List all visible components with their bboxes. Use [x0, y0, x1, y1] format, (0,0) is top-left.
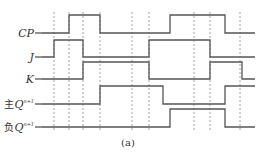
timing-diagram-svg: CPJK主Qn+1负Qn+1 (a): [0, 0, 276, 155]
waveform-master-q: [42, 86, 255, 104]
waveform-k: [42, 62, 255, 79]
waveform-slave-q: [42, 109, 255, 127]
waveform-cp: [42, 15, 255, 33]
signal-labels: CPJK主Qn+1负Qn+1: [4, 27, 42, 134]
label-master-q: 主Qn+1: [4, 98, 34, 111]
figure-caption: (a): [121, 137, 135, 148]
label-cp: CP: [18, 27, 34, 40]
waveform-j: [42, 40, 255, 57]
clock-reference-dashed-lines: [54, 12, 240, 130]
label-j: J: [28, 51, 35, 64]
label-k: K: [25, 73, 35, 86]
waveforms: [42, 15, 255, 127]
jk-flipflop-timing-diagram: CPJK主Qn+1负Qn+1 (a): [0, 0, 276, 155]
label-slave-q: 负Qn+1: [4, 121, 34, 134]
